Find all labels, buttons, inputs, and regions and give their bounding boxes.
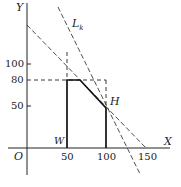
y-tick-label-50: 50: [11, 101, 24, 111]
feasible-boundary: [67, 80, 106, 148]
y-tick-label-100: 100: [5, 59, 24, 69]
y-axis-label: Y: [16, 2, 23, 13]
x-tick-label-150: 150: [138, 152, 157, 162]
x-tick-label-50: 50: [61, 152, 74, 162]
x-tick-label-100: 100: [97, 152, 116, 162]
x-axis-label: X: [164, 136, 172, 147]
line-lk-label: Lk: [72, 18, 84, 32]
point-h-label: H: [110, 96, 120, 107]
line-lk: [58, 7, 140, 174]
y-tick-label-80: 80: [11, 75, 24, 85]
origin-label: O: [14, 151, 23, 162]
line-lk-label-sub: k: [79, 24, 83, 32]
point-w-label: W: [54, 136, 64, 146]
